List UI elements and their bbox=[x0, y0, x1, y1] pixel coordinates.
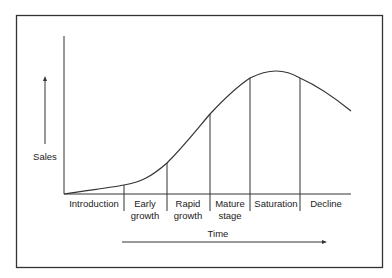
sales-curve bbox=[64, 71, 351, 194]
stage-label-mature-stage: Mature bbox=[215, 198, 245, 209]
stage-label-early-growth-2: growth bbox=[131, 210, 160, 221]
stage-label-rapid-growth-2: growth bbox=[174, 210, 203, 221]
product-life-cycle-diagram: Sales Introduction Early growth Rapid gr… bbox=[0, 0, 392, 278]
sales-arrow-icon bbox=[43, 76, 47, 144]
time-arrow-icon bbox=[122, 240, 327, 244]
stage-label-early-growth: Early bbox=[134, 198, 156, 209]
stage-label-decline: Decline bbox=[310, 198, 342, 209]
stage-dividers bbox=[124, 78, 300, 211]
y-axis-label: Sales bbox=[33, 151, 57, 162]
stage-label-rapid-growth: Rapid bbox=[176, 198, 201, 209]
stage-label-mature-stage-2: stage bbox=[218, 210, 241, 221]
frame-border bbox=[17, 16, 383, 268]
stage-label-saturation: Saturation bbox=[254, 198, 297, 209]
stage-label-introduction: Introduction bbox=[69, 198, 119, 209]
x-axis-label: Time bbox=[208, 228, 229, 239]
